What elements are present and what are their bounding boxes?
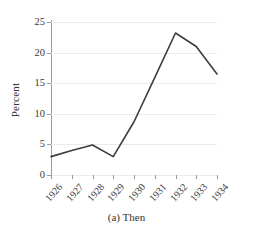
x-axis-tick-mark xyxy=(72,175,73,179)
x-axis-tick-label: 1930 xyxy=(127,182,148,204)
y-axis-tick-label: 10 xyxy=(35,109,46,120)
x-axis-tick-mark xyxy=(93,175,94,179)
figure-caption: (a) Then xyxy=(0,211,253,223)
x-axis-tick-label: 1926 xyxy=(44,182,65,204)
x-axis-tick-mark xyxy=(51,175,52,179)
x-axis-tick-label: 1928 xyxy=(85,182,106,204)
x-axis-tick-mark xyxy=(134,175,135,179)
x-axis-tick-mark xyxy=(217,175,218,179)
x-axis-tick-label: 1932 xyxy=(168,182,189,204)
x-axis-tick-label: 1927 xyxy=(64,182,85,204)
x-axis-tick-label: 1931 xyxy=(147,182,168,204)
y-axis-tick-label: 20 xyxy=(35,47,46,58)
x-axis-tick-mark xyxy=(113,175,114,179)
y-axis-tick-label: 0 xyxy=(40,170,45,181)
x-axis-tick-mark xyxy=(196,175,197,179)
x-axis-tick-label: 1933 xyxy=(189,182,210,204)
x-axis-tick-label: 1934 xyxy=(210,182,231,204)
y-axis-tick-label: 15 xyxy=(35,78,46,89)
x-axis-tick-label: 1929 xyxy=(106,182,127,204)
y-axis-tick-label: 25 xyxy=(35,17,46,28)
figure-chart-then: Percent 0510152025 192619271928192919301… xyxy=(0,0,253,234)
series-line-percent xyxy=(51,33,217,157)
y-axis-title: Percent xyxy=(9,60,23,140)
x-axis-tick-mark xyxy=(155,175,156,179)
plot-area: 0510152025 19261927192819291930193119321… xyxy=(51,22,217,175)
x-axis-tick-mark xyxy=(176,175,177,179)
series-line-group xyxy=(51,22,217,175)
y-axis-tick-label: 5 xyxy=(40,139,45,150)
